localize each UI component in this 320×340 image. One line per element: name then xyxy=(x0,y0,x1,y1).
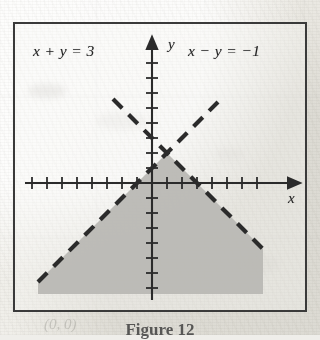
line-label-right: x − y = −1 xyxy=(188,42,260,60)
x-axis-label: x xyxy=(288,190,295,207)
scan-streak xyxy=(303,0,304,24)
y-axis-label: y xyxy=(168,36,175,53)
figure-caption: Figure 12 xyxy=(0,320,320,340)
line-label-left: x + y = 3 xyxy=(33,42,95,60)
coordinate-plane-graph xyxy=(13,22,307,312)
